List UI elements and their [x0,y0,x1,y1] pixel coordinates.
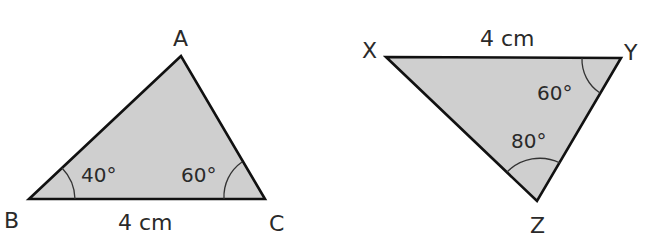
vertex-c-label: C [269,211,284,236]
triangle-xyz: X Y Z 4 cm 60° 80° [362,26,638,238]
angle-c-label: 60° [181,163,216,187]
triangle-abc: A B C 4 cm 40° 60° [4,26,284,236]
triangle-abc-shape [29,56,265,199]
angle-z-label: 80° [511,129,546,153]
vertex-z-label: Z [530,213,545,238]
angle-b-label: 40° [81,163,116,187]
vertex-a-label: A [173,26,188,51]
triangle-xyz-shape [386,57,621,201]
angle-y-label: 60° [537,81,572,105]
vertex-y-label: Y [623,40,638,65]
side-xy-label: 4 cm [480,26,535,51]
vertex-x-label: X [362,38,377,63]
vertex-b-label: B [4,208,19,233]
side-bc-label: 4 cm [118,210,173,235]
triangles-diagram: A B C 4 cm 40° 60° X Y Z 4 cm 60° 80° [0,0,659,252]
